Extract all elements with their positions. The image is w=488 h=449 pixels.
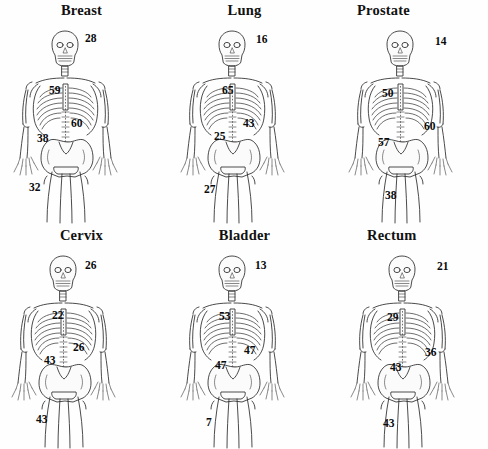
label-spine-breast: 60 xyxy=(71,118,83,130)
label-skull-lung: 16 xyxy=(256,34,268,46)
label-pelvis-rectum: 43 xyxy=(390,362,402,374)
panel-bladder: Bladder xyxy=(163,225,326,449)
label-skull-rectum: 21 xyxy=(437,261,449,273)
label-spine-bladder: 47 xyxy=(244,345,256,357)
label-femur-bladder: 7 xyxy=(206,417,212,429)
skeleton-diagram-bladder xyxy=(163,225,326,449)
skeleton-svg xyxy=(163,0,326,224)
panel-cervix: Cervix xyxy=(0,225,163,449)
label-pelvis-prostate: 57 xyxy=(378,137,390,149)
skeleton-svg xyxy=(325,225,488,449)
skeleton-svg xyxy=(0,225,163,449)
label-pelvis-bladder: 47 xyxy=(215,360,227,372)
skeleton-diagram-prostate xyxy=(325,0,488,224)
label-skull-breast: 28 xyxy=(85,33,97,45)
label-femur-lung: 27 xyxy=(204,184,216,196)
label-spine-lung: 43 xyxy=(243,118,255,130)
skeleton-diagram-rectum xyxy=(325,225,488,449)
label-ribs-prostate: 50 xyxy=(382,88,394,100)
label-spine-rectum: 36 xyxy=(425,347,437,359)
label-spine-cervix: 26 xyxy=(73,342,85,354)
label-skull-bladder: 13 xyxy=(255,260,267,272)
label-pelvis-lung: 25 xyxy=(214,131,226,143)
label-pelvis-breast: 38 xyxy=(37,133,49,145)
panel-rectum: Rectum xyxy=(325,225,488,449)
skeleton-svg xyxy=(325,0,488,224)
label-ribs-lung: 65 xyxy=(222,85,234,97)
label-spine-prostate: 60 xyxy=(424,121,436,133)
label-femur-breast: 32 xyxy=(29,182,41,194)
label-ribs-rectum: 29 xyxy=(387,312,399,324)
skeleton-diagram-breast xyxy=(0,0,163,224)
skeleton-svg xyxy=(0,0,163,224)
label-pelvis-cervix: 43 xyxy=(44,355,56,367)
label-femur-cervix: 43 xyxy=(36,414,48,426)
panel-prostate: Prostate xyxy=(325,0,488,224)
label-skull-cervix: 26 xyxy=(85,260,97,272)
label-femur-prostate: 38 xyxy=(385,190,397,202)
skeleton-svg xyxy=(163,225,326,449)
panel-breast: Breast xyxy=(0,0,163,224)
panel-lung: Lung xyxy=(163,0,326,224)
label-skull-prostate: 14 xyxy=(435,36,447,48)
label-ribs-breast: 59 xyxy=(49,85,61,97)
skeleton-figure: Breast xyxy=(0,0,488,449)
label-femur-rectum: 43 xyxy=(383,418,395,430)
label-ribs-cervix: 22 xyxy=(52,310,64,322)
skeleton-diagram-lung xyxy=(163,0,326,224)
label-ribs-bladder: 53 xyxy=(219,311,231,323)
skeleton-diagram-cervix xyxy=(0,225,163,449)
